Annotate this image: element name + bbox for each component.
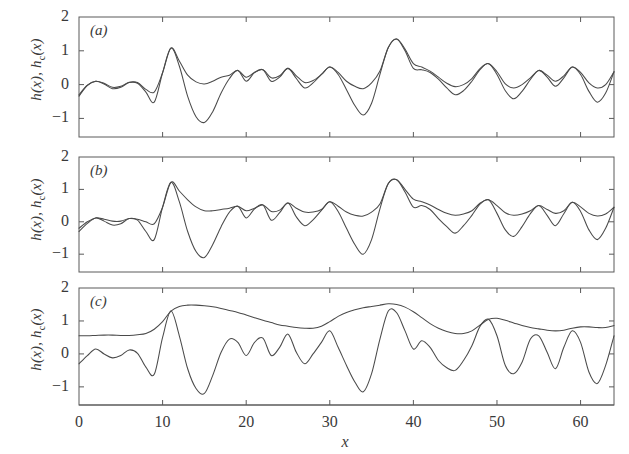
panel-c: [79, 288, 614, 405]
panel-frame: [79, 17, 614, 137]
y-tick-label: 1: [45, 41, 69, 59]
y-tick-label: −1: [45, 244, 69, 262]
panel-a: [79, 17, 614, 137]
y-axis-label-text: h(x), hc(x): [28, 38, 44, 100]
y-tick-label: 2: [45, 278, 69, 296]
x-tick-label: 20: [226, 413, 266, 431]
panel-label-b: (b): [90, 162, 108, 179]
y-axis-label-panel-a: h(x), hc(x): [28, 11, 47, 129]
x-tick-label: 50: [477, 413, 517, 431]
y-axis-label-panel-c: h(x), hc(x): [28, 281, 47, 399]
y-tick-label: 0: [45, 344, 69, 362]
curve-h-rough: [79, 179, 614, 258]
panel-frame: [79, 288, 614, 405]
y-tick-label: 0: [45, 212, 69, 230]
y-tick-label: 1: [45, 311, 69, 329]
y-axis-label-panel-b: h(x), hc(x): [28, 151, 47, 269]
x-tick-label: 40: [393, 413, 433, 431]
curve-h-coarse: [79, 304, 614, 336]
y-axis-label-text: h(x), hc(x): [28, 308, 44, 370]
figure-container: h(x), hc(x) h(x), hc(x) h(x), hc(x) (a)2…: [0, 0, 629, 454]
curve-h-rough: [79, 309, 614, 394]
x-axis-label: x: [342, 433, 349, 451]
x-tick-label: 0: [59, 413, 99, 431]
x-tick-label: 30: [310, 413, 350, 431]
y-tick-label: −1: [45, 108, 69, 126]
y-tick-label: 2: [45, 147, 69, 165]
y-tick-label: 0: [45, 75, 69, 93]
panel-b: [79, 157, 614, 272]
y-tick-label: −1: [45, 377, 69, 395]
panel-label-c: (c): [90, 293, 107, 310]
panel-label-a: (a): [90, 22, 108, 39]
y-axis-label-text: h(x), hc(x): [28, 178, 44, 240]
plot-canvas: [0, 0, 629, 454]
y-tick-label: 1: [45, 179, 69, 197]
y-tick-label: 2: [45, 7, 69, 25]
x-tick-label: 10: [143, 413, 183, 431]
x-tick-label: 60: [561, 413, 601, 431]
